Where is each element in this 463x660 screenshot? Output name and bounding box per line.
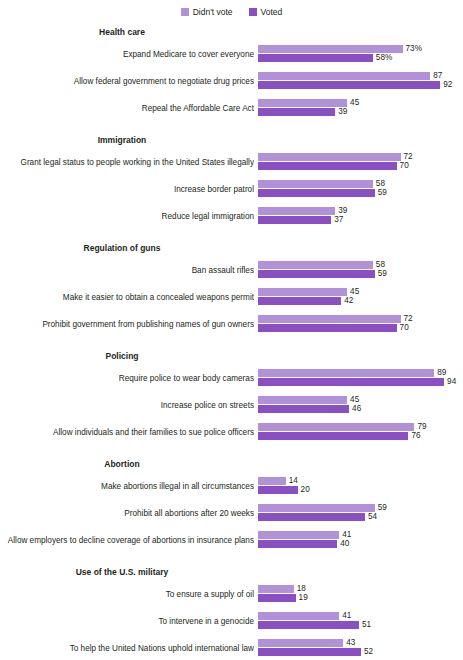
row-label: To ensure a supply of oil (0, 581, 254, 608)
bar-didnt-vote (258, 72, 430, 80)
bar-voted (258, 486, 298, 494)
bar-didnt-vote (258, 180, 373, 188)
bar-voted-value: 20 (298, 485, 310, 495)
chart-row: Increase police on streets4546 (0, 392, 463, 419)
bar-didnt-vote (258, 261, 373, 269)
row-label: Make it easier to obtain a concealed wea… (0, 284, 254, 311)
bar-voted-value: 94 (444, 377, 456, 387)
bar-didnt-vote (258, 477, 286, 485)
bar-voted-value: 51 (359, 620, 371, 630)
bar-didnt-vote (258, 99, 347, 107)
bar-didnt-vote-value: 73% (403, 44, 422, 54)
bar-didnt-vote (258, 531, 339, 539)
bar-didnt-vote (258, 612, 339, 620)
bar-voted-value: 58% (373, 53, 392, 63)
legend-label-voted: Voted (261, 8, 283, 17)
chart-row: Prohibit all abortions after 20 weeks595… (0, 500, 463, 527)
bar-voted (258, 189, 375, 197)
bar-voted (258, 405, 349, 413)
section-header: Regulation of guns (0, 240, 258, 257)
bar-didnt-vote (258, 315, 401, 323)
bar-voted (258, 621, 359, 629)
bar-didnt-vote-value: 14 (286, 476, 298, 486)
row-label: Prohibit government from publishing name… (0, 311, 254, 338)
row-label: Ban assault rifles (0, 257, 254, 284)
bar-voted-value: 42 (341, 296, 353, 306)
chart-section: PolicingRequire police to wear body came… (0, 348, 463, 446)
legend-swatch-icon-voted (249, 8, 257, 16)
bar-didnt-vote (258, 207, 335, 215)
row-label: Allow employers to decline coverage of a… (0, 527, 254, 554)
bar-didnt-vote (258, 639, 343, 647)
bar-voted (258, 108, 335, 116)
bar-voted (258, 162, 397, 170)
bar-voted-value: 70 (397, 323, 409, 333)
legend-item-didnt-vote: Didn't vote (181, 8, 233, 17)
bar-voted (258, 270, 375, 278)
bar-voted-value: 19 (296, 593, 308, 603)
bar-voted-value: 46 (349, 404, 361, 414)
bar-didnt-vote (258, 423, 414, 431)
section-header: Health care (0, 24, 258, 41)
bar-voted-value: 37 (331, 215, 343, 225)
bar-voted (258, 378, 444, 386)
bar-voted-value: 70 (397, 161, 409, 171)
section-header: Abortion (0, 456, 258, 473)
bar-voted (258, 594, 296, 602)
chart-row: Allow individuals and their families to … (0, 419, 463, 446)
chart-row: Require police to wear body cameras8994 (0, 365, 463, 392)
bar-didnt-vote (258, 369, 434, 377)
row-label: Make abortions illegal in all circumstan… (0, 473, 254, 500)
bar-voted (258, 297, 341, 305)
bar-voted-value: 54 (365, 512, 377, 522)
row-label: Increase police on streets (0, 392, 254, 419)
row-label: Allow individuals and their families to … (0, 419, 254, 446)
chart-section: AbortionMake abortions illegal in all ci… (0, 456, 463, 554)
row-label: Grant legal status to people working in … (0, 149, 254, 176)
bar-didnt-vote (258, 45, 403, 53)
bar-voted (258, 216, 331, 224)
chart-row: Repeal the Affordable Care Act4539 (0, 95, 463, 122)
chart-row: Make it easier to obtain a concealed wea… (0, 284, 463, 311)
chart-row: Expand Medicare to cover everyone73%58% (0, 41, 463, 68)
bar-didnt-vote-value: 41 (339, 611, 351, 621)
section-header: Immigration (0, 132, 258, 149)
row-label: Allow federal government to negotiate dr… (0, 68, 254, 95)
chart-row: To intervene in a genocide4151 (0, 608, 463, 635)
chart-row: Make abortions illegal in all circumstan… (0, 473, 463, 500)
chart-row: Prohibit government from publishing name… (0, 311, 463, 338)
section-spacer (0, 554, 463, 564)
chart-section: Use of the U.S. militaryTo ensure a supp… (0, 564, 463, 660)
bar-voted (258, 648, 361, 656)
chart-row: Increase border patrol5859 (0, 176, 463, 203)
bar-voted-value: 76 (408, 431, 420, 441)
bar-didnt-vote (258, 153, 401, 161)
chart-row: Reduce legal immigration3937 (0, 203, 463, 230)
bar-voted-value: 39 (335, 107, 347, 117)
chart-section: ImmigrationGrant legal status to people … (0, 132, 463, 230)
row-label: Require police to wear body cameras (0, 365, 254, 392)
bar-voted (258, 54, 373, 62)
section-header: Use of the U.S. military (0, 564, 258, 581)
chart-section: Health careExpand Medicare to cover ever… (0, 24, 463, 122)
bar-voted-value: 59 (375, 188, 387, 198)
section-spacer (0, 446, 463, 456)
bar-didnt-vote (258, 288, 347, 296)
chart-row: Grant legal status to people working in … (0, 149, 463, 176)
bar-voted (258, 324, 397, 332)
row-label: Increase border patrol (0, 176, 254, 203)
section-header: Policing (0, 348, 258, 365)
bar-voted-value: 59 (375, 269, 387, 279)
chart-row: To help the United Nations uphold intern… (0, 635, 463, 660)
bar-didnt-vote-value: 43 (343, 638, 355, 648)
bar-didnt-vote (258, 396, 347, 404)
section-spacer (0, 230, 463, 240)
legend-label-didnt-vote: Didn't vote (193, 8, 233, 17)
row-label: Expand Medicare to cover everyone (0, 41, 254, 68)
bar-didnt-vote (258, 504, 375, 512)
bar-voted-value: 52 (361, 647, 373, 657)
bar-voted (258, 81, 440, 89)
bar-voted (258, 540, 337, 548)
chart-legend: Didn't vote Voted (0, 0, 463, 20)
row-label: Prohibit all abortions after 20 weeks (0, 500, 254, 527)
